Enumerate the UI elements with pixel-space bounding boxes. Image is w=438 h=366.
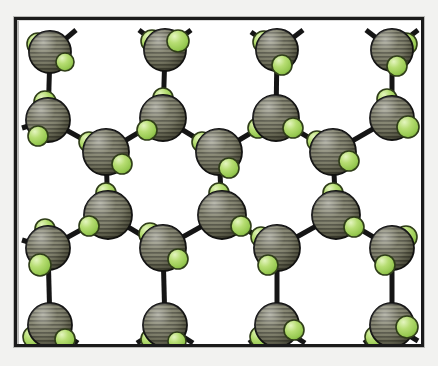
ligand-sphere <box>339 151 359 171</box>
atom-a4 <box>371 29 417 76</box>
atom-e1 <box>26 219 70 276</box>
ligand-sphere <box>219 158 239 178</box>
atom-b2 <box>137 88 186 141</box>
atom-f1 <box>23 303 75 349</box>
ligand-sphere <box>344 217 364 237</box>
atom-c1 <box>79 129 132 175</box>
ligand-sphere <box>29 254 51 276</box>
atom-c3 <box>307 129 359 175</box>
atom-layer <box>23 29 419 350</box>
ligand-sphere <box>56 53 74 71</box>
atom-d3 <box>312 183 364 239</box>
ligand-sphere <box>79 216 99 236</box>
lattice-structure <box>0 0 438 366</box>
ligand-sphere <box>283 118 303 138</box>
atom-e4 <box>370 226 417 275</box>
atom-f2 <box>141 303 187 350</box>
ligand-sphere <box>231 216 251 236</box>
ligand-sphere <box>167 30 189 52</box>
ligand-sphere <box>258 255 278 275</box>
atom-c2 <box>192 129 242 178</box>
ligand-sphere <box>168 249 188 269</box>
ligand-sphere <box>137 120 157 140</box>
atom-d1 <box>79 183 132 239</box>
figure-canvas <box>0 0 438 366</box>
ligand-sphere <box>168 332 186 350</box>
atom-f3 <box>250 303 304 348</box>
atom-b3 <box>248 95 303 141</box>
atom-d2 <box>198 183 251 239</box>
atom-b4 <box>370 89 419 140</box>
ligand-sphere <box>396 316 418 338</box>
ligand-sphere <box>284 320 304 340</box>
atom-e2 <box>139 223 188 271</box>
atom-a2 <box>141 29 189 71</box>
ligand-sphere <box>375 255 395 275</box>
ligand-sphere <box>397 116 419 138</box>
atom-b1 <box>26 91 70 146</box>
ligand-sphere <box>28 126 48 146</box>
atom-f4 <box>365 303 418 348</box>
atom-e3 <box>251 225 300 275</box>
atom-a3 <box>253 29 298 75</box>
ligand-sphere <box>387 56 407 76</box>
ligand-sphere <box>55 329 75 349</box>
ligand-sphere <box>112 154 132 174</box>
ligand-sphere <box>272 55 292 75</box>
